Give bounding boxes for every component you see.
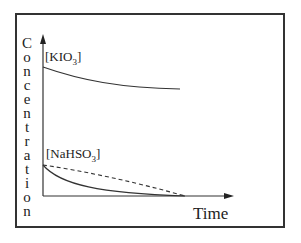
ylabel-letter: a xyxy=(20,148,34,162)
ylabel-letter: n xyxy=(20,204,34,218)
ylabel-letter: e xyxy=(20,92,34,106)
x-axis-arrow-icon xyxy=(224,193,234,199)
ylabel-letter: o xyxy=(20,50,34,64)
nahso3-label: [NaHSO3] xyxy=(46,146,100,164)
y-axis-label: C o n c e n t r a t i o n xyxy=(20,36,34,218)
x-axis-label: Time xyxy=(193,204,228,224)
kio3-curve xyxy=(43,67,180,89)
ylabel-letter: c xyxy=(20,78,34,92)
chart-plot xyxy=(0,0,301,243)
ylabel-letter: o xyxy=(20,190,34,204)
ylabel-letter: n xyxy=(20,106,34,120)
ylabel-letter: r xyxy=(20,134,34,148)
ylabel-letter: i xyxy=(20,176,34,190)
ylabel-letter: n xyxy=(20,64,34,78)
kio3-label: [KIO3] xyxy=(45,49,81,67)
nahso3-curve xyxy=(43,165,185,196)
ylabel-letter: t xyxy=(20,120,34,134)
ylabel-letter: C xyxy=(20,36,34,50)
y-axis-arrow-icon xyxy=(40,34,46,44)
ylabel-letter: t xyxy=(20,162,34,176)
